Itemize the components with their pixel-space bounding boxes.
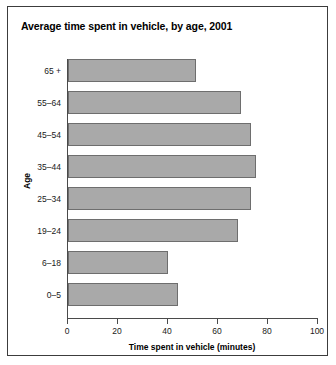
bar-row: 0–5 — [68, 283, 178, 306]
x-tick-label: 60 — [212, 326, 221, 336]
bar-row: 45–54 — [68, 123, 251, 146]
bar-0-5 — [68, 283, 178, 306]
bar-row: 65 + — [68, 59, 196, 82]
y-tick-label: 45–54 — [37, 130, 61, 140]
bar-6-18 — [68, 251, 168, 274]
y-tick-label: 6–18 — [42, 258, 61, 268]
bar-row: 6–18 — [68, 251, 168, 274]
y-tick-label: 0–5 — [47, 290, 61, 300]
bar-row: 25–34 — [68, 187, 251, 210]
x-tick — [117, 319, 118, 324]
x-tick-label: 0 — [65, 326, 70, 336]
plot-area: 65 + 55–64 45–54 35–44 25–34 19–24 6–18 — [67, 59, 317, 318]
y-tick-label: 35–44 — [37, 162, 61, 172]
bar-35-44 — [68, 155, 256, 178]
x-tick — [317, 319, 318, 324]
y-tick-label: 65 + — [44, 66, 61, 76]
bar-65-plus — [68, 59, 196, 82]
bar-row: 35–44 — [68, 155, 256, 178]
chart-title: Average time spent in vehicle, by age, 2… — [21, 20, 232, 32]
x-tick — [167, 319, 168, 324]
x-tick-label: 40 — [162, 326, 171, 336]
x-axis-label: Time spent in vehicle (minutes) — [129, 342, 255, 352]
x-tick-label: 80 — [262, 326, 271, 336]
x-axis-line — [67, 318, 318, 319]
bar-19-24 — [68, 219, 238, 242]
y-tick-label: 19–24 — [37, 226, 61, 236]
bar-row: 19–24 — [68, 219, 238, 242]
bar-row: 55–64 — [68, 91, 241, 114]
bar-25-34 — [68, 187, 251, 210]
y-axis-label: Age — [22, 173, 32, 189]
x-tick — [67, 319, 68, 324]
y-tick-label: 25–34 — [37, 194, 61, 204]
y-tick-label: 55–64 — [37, 98, 61, 108]
x-tick-label: 100 — [310, 326, 324, 336]
x-tick — [267, 319, 268, 324]
x-tick-label: 20 — [112, 326, 121, 336]
x-tick — [217, 319, 218, 324]
chart-figure: Average time spent in vehicle, by age, 2… — [7, 6, 328, 356]
bar-55-64 — [68, 91, 241, 114]
bar-45-54 — [68, 123, 251, 146]
